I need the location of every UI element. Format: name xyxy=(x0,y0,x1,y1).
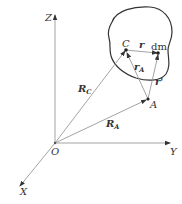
point-dm-label: dm xyxy=(151,41,167,52)
x-axis xyxy=(20,143,55,186)
z-axis-label: Z xyxy=(44,12,53,23)
vector-R-A xyxy=(55,100,146,143)
y-axis-label: Y xyxy=(170,146,178,157)
point-C-label: C xyxy=(122,38,130,49)
point-A-label: A xyxy=(149,99,157,110)
rigid-body-diagram: Z Y X O C dm A RC RA rA r r' xyxy=(0,0,182,204)
vector-R-C-label: RC xyxy=(77,83,92,96)
vector-R-A-label: RA xyxy=(105,118,119,131)
point-O xyxy=(54,142,56,144)
origin-label: O xyxy=(51,146,59,157)
vector-r-label: r xyxy=(139,39,145,50)
x-axis-label: X xyxy=(19,186,28,197)
vector-r-prime-label: r' xyxy=(155,76,163,87)
